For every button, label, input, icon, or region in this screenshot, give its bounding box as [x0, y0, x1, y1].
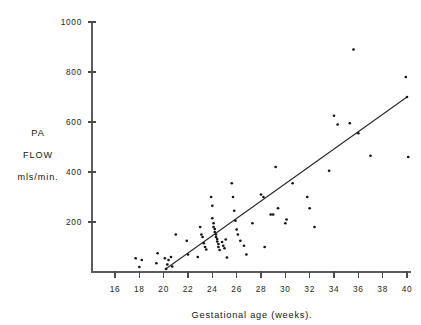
data-point: [210, 196, 213, 199]
x-tick-label: 28: [256, 284, 267, 294]
regression-line: [165, 97, 407, 270]
data-point: [284, 222, 287, 225]
data-point: [165, 268, 168, 271]
trend-line: [165, 97, 407, 270]
data-point: [221, 241, 224, 244]
data-point: [164, 257, 167, 260]
data-point: [245, 253, 248, 256]
data-point: [260, 193, 263, 196]
data-point: [291, 182, 294, 185]
axis-frame: [92, 22, 411, 272]
data-point: [216, 240, 219, 243]
data-point: [213, 228, 216, 231]
y-tick-label: 600: [66, 117, 82, 127]
data-point: [237, 233, 240, 236]
data-point: [306, 196, 309, 199]
x-tick-label: 22: [183, 284, 194, 294]
x-tick-label: 40: [402, 284, 413, 294]
data-point: [357, 132, 360, 135]
y-tick-label: 200: [66, 217, 82, 227]
data-point: [211, 217, 214, 220]
data-point: [262, 196, 265, 199]
data-point: [251, 222, 254, 225]
x-tick-label: 20: [158, 284, 169, 294]
data-point: [211, 204, 214, 207]
data-point: [222, 244, 225, 247]
data-point: [233, 209, 236, 212]
x-tick-label: 38: [377, 284, 388, 294]
data-point: [174, 233, 177, 236]
data-point: [196, 256, 199, 259]
data-point: [216, 238, 219, 241]
y-tick-label: 400: [66, 167, 82, 177]
data-point: [230, 182, 233, 185]
data-point: [204, 246, 207, 249]
data-point: [166, 263, 169, 266]
y-tick-labels: 2004006008001000: [61, 17, 82, 227]
x-tick-label: 16: [110, 284, 121, 294]
data-point: [369, 154, 372, 157]
data-point: [140, 259, 143, 262]
data-point: [215, 233, 218, 236]
chart-page: 16182022242628303234363840 2004006008001…: [0, 0, 421, 325]
data-point: [313, 226, 316, 229]
x-tick-label: 36: [353, 284, 364, 294]
data-point: [234, 219, 237, 222]
y-tick-label: 1000: [61, 17, 82, 27]
data-point: [333, 114, 336, 117]
data-point: [205, 248, 208, 251]
x-tick-label: 34: [329, 284, 340, 294]
data-point: [226, 256, 229, 259]
data-point: [217, 246, 220, 249]
data-point: [212, 222, 215, 225]
data-point: [406, 96, 409, 99]
x-tick-label: 30: [280, 284, 291, 294]
x-tick-labels: 16182022242628303234363840: [110, 284, 413, 294]
data-point: [352, 48, 355, 51]
data-point: [201, 236, 204, 239]
data-point: [328, 169, 331, 172]
data-point: [404, 76, 407, 79]
data-point: [218, 249, 221, 252]
x-tick-label: 32: [304, 284, 315, 294]
data-point: [217, 243, 220, 246]
data-point: [213, 231, 216, 234]
data-points: [134, 48, 409, 270]
data-point: [185, 239, 188, 242]
x-tick-label: 18: [134, 284, 145, 294]
x-tick-label: 26: [231, 284, 242, 294]
data-point: [274, 166, 277, 169]
data-point: [156, 252, 159, 255]
data-point: [272, 213, 275, 216]
data-point: [200, 233, 203, 236]
x-axis-title: Gestational age (weeks).: [192, 310, 313, 320]
data-point: [269, 213, 272, 216]
data-point: [155, 262, 158, 265]
data-point: [243, 244, 246, 247]
data-point: [199, 226, 202, 229]
data-point: [170, 256, 173, 259]
axes: [92, 22, 411, 272]
data-point: [134, 257, 137, 260]
data-point: [167, 259, 170, 262]
data-point: [336, 123, 339, 126]
data-point: [348, 122, 351, 125]
data-point: [308, 207, 311, 210]
data-point: [138, 266, 141, 269]
x-tick-label: 24: [207, 284, 218, 294]
y-axis-title-line-3: mls/min.: [17, 172, 58, 182]
scatter-plot: 16182022242628303234363840 2004006008001…: [0, 0, 421, 325]
data-point: [277, 207, 280, 210]
data-point: [202, 242, 205, 245]
data-point: [187, 253, 190, 256]
axis-ticks: [88, 22, 407, 278]
data-point: [285, 218, 288, 221]
data-point: [223, 247, 226, 250]
data-point: [407, 156, 410, 159]
data-point: [263, 246, 266, 249]
data-point: [171, 265, 174, 268]
y-axis-title-line-1: PA: [31, 128, 44, 138]
y-axis-title-line-2: FLOW: [23, 150, 53, 160]
data-point: [232, 196, 235, 199]
y-tick-label: 800: [66, 67, 82, 77]
